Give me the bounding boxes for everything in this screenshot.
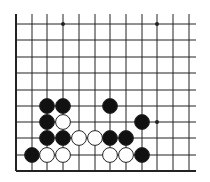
black-stone[interactable] xyxy=(40,99,55,114)
black-stone[interactable] xyxy=(56,99,71,114)
black-stone[interactable] xyxy=(40,131,55,146)
black-stone[interactable] xyxy=(135,115,150,130)
black-stone[interactable] xyxy=(103,131,118,146)
go-board[interactable] xyxy=(0,0,210,182)
white-stone[interactable] xyxy=(119,148,134,163)
star-point xyxy=(155,120,159,124)
black-stone[interactable] xyxy=(103,99,118,114)
white-stone[interactable] xyxy=(72,131,87,146)
stones xyxy=(25,99,150,163)
star-point xyxy=(61,22,65,26)
white-stone[interactable] xyxy=(56,148,71,163)
white-stone[interactable] xyxy=(40,148,55,163)
black-stone[interactable] xyxy=(135,148,150,163)
black-stone[interactable] xyxy=(25,148,40,163)
white-stone[interactable] xyxy=(56,115,71,130)
black-stone[interactable] xyxy=(40,115,55,130)
grid-lines xyxy=(16,14,196,171)
star-point xyxy=(155,22,159,26)
black-stone[interactable] xyxy=(119,131,134,146)
white-stone[interactable] xyxy=(88,131,103,146)
black-stone[interactable] xyxy=(56,131,71,146)
white-stone[interactable] xyxy=(103,148,118,163)
